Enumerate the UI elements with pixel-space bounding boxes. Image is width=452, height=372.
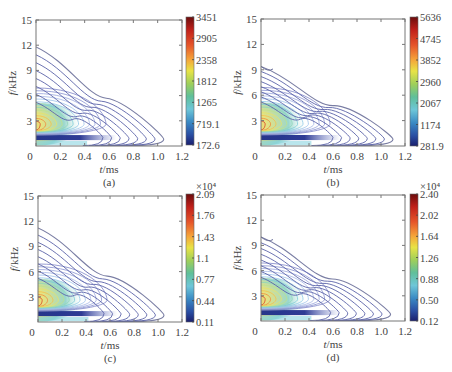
x-tick-label: 0.8: [350, 150, 364, 162]
x-tick-label: 0: [27, 150, 33, 162]
x-tick-label: 0.8: [350, 325, 364, 337]
x-tick-label: 1.0: [151, 150, 165, 162]
panel-label: (b): [327, 176, 340, 189]
x-tick-label: 0.6: [103, 326, 117, 338]
x-tick-label: 1.2: [175, 150, 189, 162]
y-tick-label: 6: [252, 265, 258, 277]
colorbar-tick-label: 172.6: [196, 140, 220, 151]
x-tick-label: 1.0: [374, 150, 388, 162]
panel-label: (a): [103, 176, 116, 189]
x-tick-label: 0.4: [302, 150, 316, 162]
x-tick-label: 0: [252, 150, 258, 162]
y-tick-label: 3: [252, 290, 258, 302]
colorbar-tick-label: 719.1: [196, 119, 220, 130]
colorbar-tick-label: 1265: [196, 97, 217, 108]
colorbar-tick-label: 1.26: [420, 253, 438, 264]
colorbar-tick-label: 1.76: [196, 210, 214, 221]
y-tick-label: 3: [27, 115, 33, 127]
x-tick-label: 0.4: [79, 326, 93, 338]
colorbar-tick-label: 1.43: [196, 232, 214, 243]
colorbar-tick-label: 3852: [420, 55, 441, 66]
x-tick-label: 0.2: [278, 325, 292, 337]
colorbar-tick-label: 5636: [420, 12, 441, 23]
x-tick-label: 0.8: [127, 326, 141, 338]
panel-label: (d): [327, 351, 340, 364]
contour-area: [0, 228, 164, 322]
y-tick-label: 3: [29, 291, 35, 303]
x-tick-label: 0.2: [55, 326, 69, 338]
colorbar-tick-label: 0.88: [420, 274, 438, 285]
colorbar-tick-label: 2358: [196, 55, 217, 66]
x-tick-label: 0.2: [53, 150, 67, 162]
colorbar-tick-label: 1812: [196, 76, 217, 87]
x-axis-label: t/ms: [101, 339, 120, 351]
x-axis-label: t/ms: [324, 338, 343, 350]
y-tick-label: 6: [27, 90, 33, 102]
y-tick-label: 12: [23, 215, 34, 227]
colorbar-tick-label: 0.50: [420, 295, 438, 306]
y-axis-label: f/kHz: [231, 246, 243, 271]
colorbar-tick-label: 4745: [420, 34, 441, 45]
x-tick-label: 1.2: [175, 326, 189, 338]
colorbar-tick-label: 3451: [196, 12, 217, 23]
panel-a: 00.20.40.60.81.01.23691215t/msf/kHz(a)34…: [0, 12, 220, 189]
y-tick-label: 15: [246, 189, 258, 201]
x-tick-label: 1.2: [398, 325, 412, 337]
x-tick-label: 0.6: [326, 150, 340, 162]
x-tick-label: 0.6: [326, 325, 340, 337]
x-tick-label: 0.8: [126, 150, 140, 162]
x-tick-label: 0.6: [102, 150, 116, 162]
panel-label: (c): [104, 352, 117, 365]
y-tick-label: 12: [246, 38, 257, 50]
y-tick-label: 9: [29, 240, 35, 252]
x-tick-label: 1.0: [374, 325, 388, 337]
y-tick-label: 9: [252, 64, 258, 76]
colorbar-tick-label: 1.1: [196, 253, 209, 264]
contour-area: [0, 47, 164, 146]
panel-b: 00.20.40.60.81.01.23691215t/msf/kHz(b)56…: [215, 12, 444, 189]
colorbar-multiplier: ×10⁴: [196, 181, 216, 192]
y-axis-label: f/kHz: [6, 71, 18, 96]
colorbar-tick-label: 281.9: [420, 141, 444, 152]
x-tick-label: 1.2: [398, 150, 412, 162]
y-tick-label: 15: [21, 14, 33, 26]
panel-d: 00.20.40.60.81.01.23691215t/msf/kHz(d)2.…: [215, 181, 441, 364]
colorbar-tick-label: 0.11: [196, 317, 214, 328]
x-tick-label: 1.0: [151, 326, 165, 338]
y-tick-label: 6: [252, 89, 258, 101]
y-tick-label: 6: [29, 266, 35, 278]
colorbar-tick-label: 2067: [420, 98, 441, 109]
colorbar-tick-label: 2960: [420, 77, 441, 88]
y-tick-label: 12: [21, 39, 32, 51]
x-tick-label: 0.4: [78, 150, 92, 162]
y-tick-label: 15: [246, 13, 258, 25]
panel-c: 00.20.40.60.81.01.23691215t/msf/kHz(c)2.…: [0, 181, 216, 365]
colorbar-tick-label: 0.44: [196, 296, 215, 307]
colorbar-tick-label: 0.12: [420, 316, 438, 327]
x-axis-label: t/ms: [100, 163, 119, 175]
x-axis-label: t/ms: [324, 163, 343, 175]
y-tick-label: 9: [27, 64, 33, 76]
colorbar-tick-label: 0.77: [196, 274, 214, 285]
y-tick-label: 15: [23, 190, 35, 202]
y-tick-label: 3: [252, 115, 258, 127]
colorbar-tick-label: 1.64: [420, 231, 439, 242]
x-tick-label: 0.2: [278, 150, 292, 162]
y-axis-label: f/kHz: [8, 247, 20, 272]
colorbar-tick-label: 2.02: [420, 210, 438, 221]
colorbar-tick-label: 2905: [196, 33, 217, 44]
y-tick-label: 9: [252, 239, 258, 251]
x-tick-label: 0: [29, 326, 35, 338]
y-tick-label: 12: [246, 214, 257, 226]
y-axis-label: f/kHz: [231, 70, 243, 95]
figure: 00.20.40.60.81.01.23691215t/msf/kHz(a)34…: [0, 0, 452, 372]
x-tick-label: 0.4: [302, 325, 316, 337]
colorbar-tick-label: 1174: [420, 120, 441, 131]
x-tick-label: 0: [252, 325, 258, 337]
colorbar-multiplier: ×10⁴: [420, 181, 440, 192]
